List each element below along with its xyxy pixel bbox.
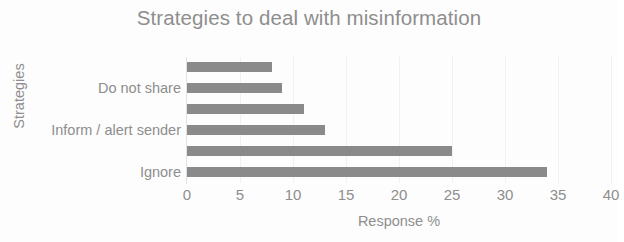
x-axis-title: Response %	[187, 213, 611, 229]
bar[interactable]	[187, 125, 325, 135]
bar[interactable]	[187, 104, 304, 114]
bar[interactable]	[187, 167, 547, 177]
gridline	[452, 57, 453, 183]
x-axis-tick-label: 0	[183, 186, 191, 203]
gridline	[240, 57, 241, 183]
x-axis-tick-labels: 0510152025303540	[187, 186, 624, 208]
gridline	[505, 57, 506, 183]
x-axis-tick-label: 30	[497, 186, 514, 203]
y-axis-tick-label: Do not share	[1, 80, 181, 96]
x-axis-tick-label: 40	[603, 186, 620, 203]
x-axis-tick-label: 5	[236, 186, 244, 203]
bar[interactable]	[187, 146, 452, 156]
y-axis-tick-label: Inform / alert sender	[1, 122, 181, 138]
gridline	[399, 57, 400, 183]
chart-title: Strategies to deal with misinformation	[0, 6, 618, 30]
x-axis-tick-label: 35	[550, 186, 567, 203]
gridline	[293, 57, 294, 183]
x-axis-tick-label: 10	[285, 186, 302, 203]
x-axis-tick-label: 25	[444, 186, 461, 203]
plot-area	[187, 57, 611, 183]
x-axis-tick-label: 15	[338, 186, 355, 203]
y-axis-tick-labels: Do not shareInform / alert senderIgnore	[0, 57, 181, 183]
gridline	[346, 57, 347, 183]
gridline	[611, 57, 612, 183]
y-axis-tick-label: Ignore	[1, 164, 181, 180]
x-axis-tick-label: 20	[391, 186, 408, 203]
gridline	[558, 57, 559, 183]
bar[interactable]	[187, 62, 272, 72]
bar[interactable]	[187, 83, 282, 93]
